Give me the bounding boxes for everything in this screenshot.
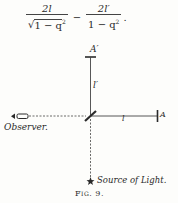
source-of-light-label: Source of Light. (97, 175, 166, 185)
observer-label: Observer. (4, 122, 48, 132)
horizontal-arm-label: l (122, 114, 125, 123)
figure-caption: Fig. 9. (75, 189, 104, 198)
apparatus-drawing (0, 0, 178, 203)
eyepiece-icon (11, 114, 15, 120)
vertical-arm-label: l′ (93, 80, 98, 90)
mirror-top-label: A′ (90, 44, 99, 54)
light-source-star-icon (87, 177, 95, 185)
mirror-right-label: A (160, 110, 166, 119)
telescope-icon (17, 114, 28, 119)
